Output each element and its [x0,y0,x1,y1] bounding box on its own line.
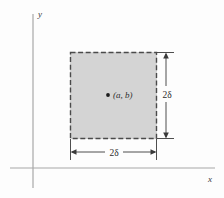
center-point-label: (a, b) [113,90,133,100]
y-axis-label: y [37,9,42,19]
x-axis-label: x [207,174,212,184]
figure-container: y x (a, b) 2δ [0,0,224,198]
horizontal-dimension-label: 2δ [109,148,119,158]
vertical-dimension-label: 2δ [162,90,172,100]
delta-neighborhood-diagram: y x (a, b) 2δ [0,0,224,198]
center-point-marker [106,93,110,97]
